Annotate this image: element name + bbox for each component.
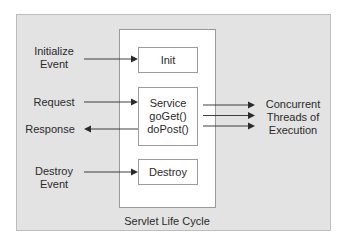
service-box-line-3: doPost(): [147, 123, 189, 136]
initialize-event-line-2: Event: [24, 58, 84, 71]
destroy-box: Destroy: [138, 159, 198, 185]
destroy-event-label: Destroy Event: [24, 165, 84, 191]
destroy-box-label: Destroy: [149, 166, 187, 179]
service-box: Service goGet() doPost(): [138, 87, 198, 146]
request-label: Request: [24, 96, 84, 109]
service-box-line-1: Service: [150, 97, 187, 110]
init-box: Init: [138, 47, 198, 73]
response-label: Response: [20, 123, 80, 136]
concurrent-threads-line-3: Execution: [258, 124, 328, 137]
concurrent-threads-label: Concurrent Threads of Execution: [258, 98, 328, 137]
init-box-label: Init: [161, 54, 176, 67]
initialize-event-line-1: Initialize: [24, 45, 84, 58]
initialize-event-label: Initialize Event: [24, 45, 84, 71]
destroy-event-line-2: Event: [24, 178, 84, 191]
destroy-event-line-1: Destroy: [24, 165, 84, 178]
concurrent-threads-line-2: Threads of: [258, 111, 328, 124]
diagram-caption: Servlet Life Cycle: [117, 215, 217, 228]
service-box-line-2: goGet(): [149, 110, 186, 123]
concurrent-threads-line-1: Concurrent: [258, 98, 328, 111]
